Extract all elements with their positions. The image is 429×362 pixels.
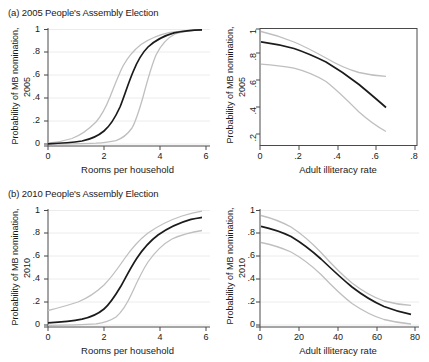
panel-b-illiteracy: Probability of MB nomination, 2010 0 .2 … [215, 181, 429, 362]
panel-b-illit-ytick-0: 0 [243, 319, 255, 329]
panel-b-rooms-xtick-1: 2 [101, 332, 106, 342]
panel-a-rooms-xtick-1: 2 [101, 151, 106, 161]
ci-upper-line [48, 211, 202, 310]
y-axis-title-line1: Probability of MB nomination, [10, 208, 20, 325]
panel-a-illit-xtick-1: .2 [294, 151, 302, 161]
panel-a-rooms-y-axis-title: Probability of MB nomination, [10, 26, 21, 146]
panel-a-rooms-xtick-2: 4 [157, 151, 162, 161]
axis-lines [44, 209, 210, 331]
panel-b-illit-y-axis-title: Probability of MB nomination, [225, 201, 236, 331]
panel-a-illiteracy: Probability of MB nomination, 2005 .2 .4… [215, 0, 429, 181]
panel-a-rooms-ytick-5: 1 [28, 24, 40, 34]
fit-line [48, 30, 202, 144]
ci-lower-line [261, 243, 411, 325]
panel-a-illit-xtick-4: .8 [410, 151, 418, 161]
panel-b-illit-y-axis-title-2: 2010 [237, 233, 248, 303]
y-axis-title-line2: 2005 [237, 77, 247, 97]
panel-a-illit-y-axis-title: Probability of MB nomination, [225, 20, 236, 150]
panel-a-rooms-x-axis-title: Rooms per household [40, 164, 215, 175]
panel-b-rooms-xtick-3: 6 [203, 332, 208, 342]
panel-b-illit-xtick-3: 60 [372, 332, 382, 342]
panel-b-illit-ytick-5: 1 [243, 205, 255, 215]
panel-b-title: (b) 2010 People's Assembly Election [8, 188, 158, 199]
panel-a-illit-x-axis-title: Adult illiteracy rate [253, 164, 423, 175]
panel-b-illit-ytick-2: .4 [243, 273, 255, 283]
panel-b-illit-ytick-3: .6 [243, 250, 255, 260]
panel-a-illit-xtick-2: .4 [333, 151, 341, 161]
y-axis-title-line1: Probability of MB nomination, [225, 26, 235, 143]
panel-b-rooms: (b) 2010 People's Assembly Election Prob… [0, 181, 215, 362]
panel-b-rooms-ytick-4: .8 [28, 227, 40, 237]
panel-a-illit-y-axis-title-2: 2005 [237, 52, 248, 122]
panel-b-rooms-plot [44, 209, 210, 327]
panel-a-illiteracy-plot [256, 28, 418, 146]
panel-a-rooms-ytick-1: .2 [28, 115, 40, 125]
panel-a-illit-xtick-0: 0 [257, 151, 262, 161]
panel-a-rooms-plot [44, 28, 210, 146]
panel-b-illit-xtick-2: 40 [333, 332, 343, 342]
panel-b-rooms-xtick-0: 0 [45, 332, 50, 342]
panel-b-rooms-ytick-5: 1 [28, 205, 40, 215]
panel-a-rooms-xtick-3: 6 [203, 151, 208, 161]
panel-a-rooms-ytick-4: .8 [28, 46, 40, 56]
panel-b-illit-ytick-1: .2 [243, 296, 255, 306]
panel-b-illit-xtick-0: 0 [257, 332, 262, 342]
panel-a-rooms-xtick-0: 0 [45, 151, 50, 161]
ci-lower-line [48, 30, 202, 144]
panel-b-illit-x-axis-title: Adult illiteracy rate [253, 345, 423, 356]
gridlines [256, 211, 419, 326]
panel-b-illit-xtick-4: 80 [410, 332, 420, 342]
panel-b-rooms-ytick-2: .4 [28, 273, 40, 283]
fit-line [261, 226, 411, 314]
panel-b-illit-ytick-4: .8 [243, 227, 255, 237]
panel-a-rooms-ytick-2: .4 [28, 92, 40, 102]
panel-a-rooms-ytick-0: 0 [28, 138, 40, 148]
y-axis-title-line1: Probability of MB nomination, [10, 27, 20, 144]
panel-a-rooms: (a) 2005 People's Assembly Election Prob… [0, 0, 215, 181]
gridlines [44, 211, 210, 326]
panel-b-illit-xtick-1: 20 [294, 332, 304, 342]
ci-upper-line [261, 32, 386, 77]
panel-b-rooms-y-axis-title: Probability of MB nomination, [10, 207, 21, 327]
panel-b-rooms-xtick-2: 4 [157, 332, 162, 342]
panel-b-rooms-ytick-0: 0 [28, 319, 40, 329]
ci-upper-line [48, 30, 202, 143]
panel-a-illit-xtick-3: .6 [371, 151, 379, 161]
panel-b-illiteracy-plot [256, 209, 419, 327]
figure-panel-grid: (a) 2005 People's Assembly Election Prob… [0, 0, 429, 362]
y-axis-title-line1: Probability of MB nomination, [225, 207, 235, 324]
panel-a-rooms-ytick-3: .6 [28, 69, 40, 79]
panel-a-rooms-y-axis-title-2: 2005 [22, 52, 33, 122]
panel-b-rooms-y-axis-title-2: 2010 [22, 233, 33, 303]
panel-b-rooms-x-axis-title: Rooms per household [40, 345, 215, 356]
panel-a-title: (a) 2005 People's Assembly Election [8, 7, 158, 18]
panel-b-rooms-ytick-3: .6 [28, 250, 40, 260]
ci-upper-line [261, 216, 411, 306]
panel-b-rooms-ytick-1: .2 [28, 296, 40, 306]
